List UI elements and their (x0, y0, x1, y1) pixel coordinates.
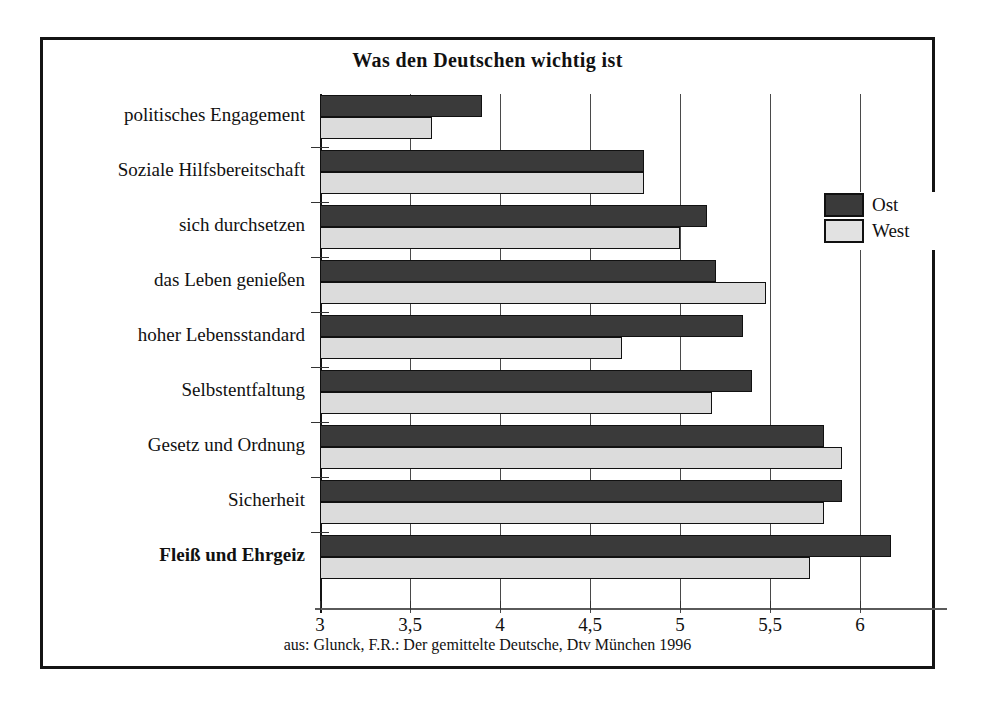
x-axis-tick (590, 601, 591, 610)
figure-container: Was den Deutschen wichtig ist politische… (0, 0, 982, 706)
bar-ost (320, 260, 716, 282)
bar-ost (320, 480, 842, 502)
x-axis-tick (500, 601, 501, 610)
bar-west (320, 282, 766, 304)
bar-row: Selbstentfaltung (43, 367, 932, 422)
x-axis-tick (860, 601, 861, 610)
category-label: Sicherheit (43, 489, 305, 511)
x-axis-tick (770, 601, 771, 610)
bar-west (320, 447, 842, 469)
bar-ost (320, 205, 707, 227)
bar-ost (320, 370, 752, 392)
chart-title: Was den Deutschen wichtig ist (43, 49, 932, 72)
legend: OstWest (824, 192, 936, 250)
category-tick (311, 532, 329, 533)
bar-west (320, 172, 644, 194)
bar-ost (320, 535, 891, 557)
x-axis-tick-label: 4 (470, 614, 530, 636)
bar-row: hoher Lebensstandard (43, 312, 932, 367)
bar-ost (320, 425, 824, 447)
category-tick (311, 422, 329, 423)
category-label: Selbstentfaltung (43, 379, 305, 401)
category-tick (311, 257, 329, 258)
bar-row: Soziale Hilfsbereitschaft (43, 147, 932, 202)
bar-row: das Leben genießen (43, 257, 932, 312)
plot-area: politisches EngagementSoziale Hilfsberei… (43, 88, 932, 608)
category-label: Soziale Hilfsbereitschaft (43, 159, 305, 181)
category-tick (311, 477, 329, 478)
legend-label: West (872, 218, 910, 244)
bar-west (320, 502, 824, 524)
bar-ost (320, 315, 743, 337)
legend-label: Ost (872, 192, 898, 218)
category-label: sich durchsetzen (43, 214, 305, 236)
x-axis-tick (410, 601, 411, 610)
category-label: Fleiß und Ehrgeiz (43, 544, 305, 566)
category-label: hoher Lebensstandard (43, 324, 305, 346)
legend-swatch-light (824, 219, 864, 243)
legend-swatch-dark (824, 193, 864, 217)
category-tick (311, 312, 329, 313)
bar-row: Fleiß und Ehrgeiz (43, 532, 932, 587)
x-axis-tick-label: 5 (650, 614, 710, 636)
bar-ost (320, 95, 482, 117)
category-label: das Leben genießen (43, 269, 305, 291)
bar-west (320, 117, 432, 139)
bar-row: Sicherheit (43, 477, 932, 532)
x-axis-tick-label: 6 (830, 614, 890, 636)
x-axis-tick (320, 601, 321, 610)
bar-ost (320, 150, 644, 172)
category-tick (311, 147, 329, 148)
x-axis-tick-label: 5,5 (740, 614, 800, 636)
bar-west (320, 227, 680, 249)
category-label: politisches Engagement (43, 104, 305, 126)
category-label: Gesetz und Ordnung (43, 434, 305, 456)
x-axis-tick (680, 601, 681, 610)
bar-west (320, 557, 810, 579)
x-axis-tick-label: 3,5 (380, 614, 440, 636)
bar-row: sich durchsetzen (43, 202, 932, 257)
bar-west (320, 337, 622, 359)
x-axis-tick-label: 4,5 (560, 614, 620, 636)
chart-frame: Was den Deutschen wichtig ist politische… (40, 37, 935, 669)
category-tick (311, 367, 329, 368)
x-axis-tick-label: 3 (290, 614, 350, 636)
category-tick (311, 202, 329, 203)
source-caption: aus: Glunck, F.R.: Der gemittelte Deutsc… (43, 636, 932, 654)
bar-row: politisches Engagement (43, 92, 932, 147)
bar-row: Gesetz und Ordnung (43, 422, 932, 477)
bar-west (320, 392, 712, 414)
